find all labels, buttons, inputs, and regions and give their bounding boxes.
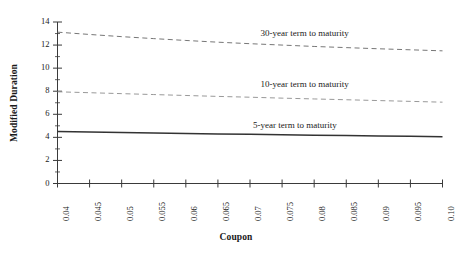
y-axis-tick-label: 0 bbox=[30, 179, 50, 188]
x-axis-tick-label: 0.09 bbox=[382, 206, 391, 221]
y-axis-tick-label: 14 bbox=[30, 17, 50, 26]
series-line-1 bbox=[58, 92, 443, 102]
x-axis-tick-label: 0.095 bbox=[414, 201, 423, 220]
x-axis-tick-label: 0.055 bbox=[158, 201, 167, 220]
y-axis-tick-label: 10 bbox=[30, 63, 50, 72]
y-axis-tick-label: 12 bbox=[30, 40, 50, 49]
series-annotation-label: 10-year term to maturity bbox=[261, 79, 349, 89]
x-axis-tick-label: 0.045 bbox=[94, 201, 103, 220]
x-axis-title: Coupon bbox=[0, 232, 472, 242]
y-axis-tick-label: 4 bbox=[30, 132, 50, 141]
x-axis-tick-label: 0.05 bbox=[126, 206, 135, 221]
series-annotation-label: 30-year term to maturity bbox=[261, 28, 349, 38]
x-axis-tick-label: 0.04 bbox=[62, 206, 71, 221]
x-axis-tick-label: 0.08 bbox=[318, 206, 327, 221]
y-axis-tick-label: 2 bbox=[30, 155, 50, 164]
x-axis-tick-label: 0.06 bbox=[190, 206, 199, 221]
y-axis-tick-label: 6 bbox=[30, 109, 50, 118]
x-axis-tick-label: 0.07 bbox=[254, 206, 263, 221]
chart-figure: Modified Duration Coupon 02468101214 0.0… bbox=[0, 0, 472, 253]
x-axis-tick-label: 0.10 bbox=[447, 206, 456, 221]
x-axis-tick-label: 0.065 bbox=[222, 201, 231, 220]
series-line-0 bbox=[58, 32, 443, 51]
x-axis-tick-label: 0.085 bbox=[350, 201, 359, 220]
y-axis-title: Modified Duration bbox=[7, 23, 21, 183]
series-annotation-label: 5-year term to maturity bbox=[253, 120, 337, 130]
x-axis-tick-label: 0.075 bbox=[286, 201, 295, 220]
y-axis-tick-label: 8 bbox=[30, 86, 50, 95]
series-line-2 bbox=[58, 132, 443, 137]
